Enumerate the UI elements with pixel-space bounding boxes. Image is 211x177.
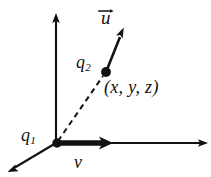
u-vector xyxy=(106,28,124,73)
q1-label-symbol: q xyxy=(21,125,30,145)
q1-label: q1 xyxy=(21,126,36,144)
q2-label-subscript: 2 xyxy=(85,61,91,73)
q1-point-marker xyxy=(52,138,61,147)
u-vector-label: u xyxy=(101,8,111,27)
q2-label-symbol: q xyxy=(76,52,85,72)
q1-label-subscript: 1 xyxy=(30,134,36,146)
vertical-axis xyxy=(52,13,60,143)
vector-diagram: u q2 (x, y, z) q1 v xyxy=(0,0,211,177)
v-vector xyxy=(57,136,113,149)
v-vector-label: v xyxy=(74,153,82,171)
q1-to-q2-dashed-line xyxy=(58,76,103,141)
depth-axis xyxy=(8,143,57,172)
vector-arrow-accent-icon xyxy=(97,7,114,14)
q2-label: q2 xyxy=(76,53,91,71)
u-vector-arrowhead xyxy=(116,28,124,39)
point-coordinates-label: (x, y, z) xyxy=(104,78,159,96)
q2-point-marker xyxy=(101,67,111,77)
